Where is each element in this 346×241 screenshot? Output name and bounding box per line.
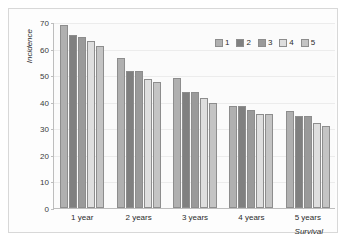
legend-label: 4 <box>289 39 293 47</box>
bar-groups: 1 year2 years3 years4 years5 years <box>54 23 335 208</box>
chart-legend: 12345 <box>212 37 318 49</box>
legend-item[interactable]: 5 <box>301 39 315 47</box>
y-tick-label: 0 <box>45 205 49 214</box>
y-tick-label: 20 <box>40 151 49 160</box>
y-axis-title-text: Incidence <box>25 29 34 63</box>
bar[interactable] <box>135 71 143 208</box>
bar[interactable] <box>313 123 321 208</box>
x-tick-label: 1 year <box>54 213 110 222</box>
x-tick-label: 2 years <box>110 213 166 222</box>
legend-item[interactable]: 2 <box>236 39 250 47</box>
chart-figure: Incidence 010203040506070 1 year2 years3… <box>0 0 346 241</box>
bar[interactable] <box>182 92 190 208</box>
bar[interactable] <box>256 114 264 208</box>
y-tick-label: 70 <box>40 19 49 28</box>
bar[interactable] <box>322 126 330 208</box>
legend-item[interactable]: 4 <box>279 39 293 47</box>
legend-label: 5 <box>311 39 315 47</box>
bar-group: 1 year <box>54 23 110 208</box>
bar[interactable] <box>295 116 303 208</box>
legend-item[interactable]: 1 <box>215 39 229 47</box>
bar-group: 2 years <box>110 23 166 208</box>
bar-group: 3 years <box>167 23 223 208</box>
bar-group: 4 years <box>223 23 279 208</box>
bar[interactable] <box>238 106 246 208</box>
bar[interactable] <box>200 98 208 208</box>
legend-label: 1 <box>225 39 229 47</box>
figure-frame: Incidence 010203040506070 1 year2 years3… <box>8 8 338 233</box>
y-tick-label: 40 <box>40 98 49 107</box>
bar-group: 5 years <box>280 23 336 208</box>
y-axis-title: Incidence <box>23 23 35 209</box>
bar[interactable] <box>96 46 104 208</box>
bar[interactable] <box>191 92 199 208</box>
legend-swatch-icon <box>215 39 223 47</box>
legend-item[interactable]: 3 <box>258 39 272 47</box>
legend-swatch-icon <box>279 39 287 47</box>
legend-swatch-icon <box>236 39 244 47</box>
bar[interactable] <box>153 82 161 208</box>
y-tick-label: 10 <box>40 178 49 187</box>
x-axis-title: Survival <box>295 227 323 236</box>
x-tick-label: 5 years <box>280 213 336 222</box>
legend-label: 3 <box>268 39 272 47</box>
legend-swatch-icon <box>301 39 309 47</box>
bar[interactable] <box>247 110 255 208</box>
bar[interactable] <box>144 79 152 208</box>
plot-area: 010203040506070 1 year2 years3 years4 ye… <box>53 23 335 209</box>
x-axis-title-text: Survival <box>295 227 323 236</box>
x-tick-label: 4 years <box>223 213 279 222</box>
y-tick-label: 60 <box>40 45 49 54</box>
bar[interactable] <box>87 41 95 208</box>
x-tick-label: 3 years <box>167 213 223 222</box>
bar[interactable] <box>117 58 125 208</box>
bar[interactable] <box>60 25 68 208</box>
bar[interactable] <box>265 114 273 208</box>
bar[interactable] <box>209 103 217 208</box>
legend-label: 2 <box>246 39 250 47</box>
bar[interactable] <box>173 78 181 208</box>
bar[interactable] <box>69 35 77 208</box>
bar[interactable] <box>286 111 294 208</box>
bar[interactable] <box>304 116 312 208</box>
legend-swatch-icon <box>258 39 266 47</box>
y-tick-label: 50 <box>40 72 49 81</box>
bar[interactable] <box>126 71 134 208</box>
y-tick-label: 30 <box>40 125 49 134</box>
y-tick-mark <box>51 209 54 210</box>
bar[interactable] <box>229 106 237 208</box>
bar[interactable] <box>78 37 86 208</box>
